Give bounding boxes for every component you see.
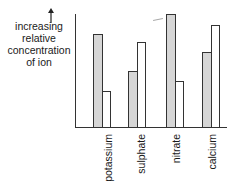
y-label-line: of ion [3, 56, 75, 68]
x-tick-label-sulphate: sulphate [135, 134, 147, 174]
x-tick-label-nitrate: nitrate [170, 134, 182, 163]
y-axis [75, 14, 76, 128]
bar-potassium-unshaded [102, 91, 111, 128]
bar-nitrate-unshaded [175, 81, 184, 128]
y-label-line: increasing [3, 20, 75, 32]
bar-sulphate-unshaded [137, 42, 146, 128]
x-tick-label-potassium: potassium [102, 134, 114, 182]
y-axis-label: increasing relative concentration of ion [3, 20, 75, 68]
stray-mark [153, 18, 163, 21]
y-label-line: relative [3, 32, 75, 44]
x-tick-label-calcium: calcium [206, 134, 218, 170]
y-label-line: concentration [3, 44, 75, 56]
bar-calcium-unshaded [211, 25, 220, 128]
